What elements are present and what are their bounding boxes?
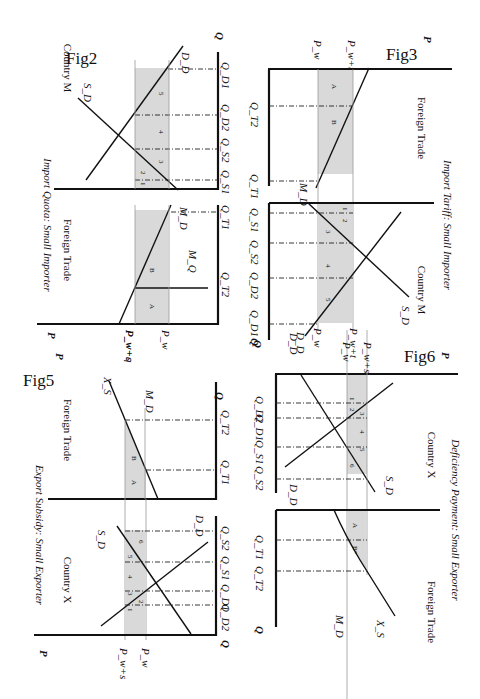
fig6-qt2-label: Q_T2 (254, 566, 266, 592)
fig5-area-5: 5 (126, 555, 134, 559)
fig3-import-tariff: Fig3 P Import Tariff: Small Importer For… (249, 36, 454, 359)
fig3-area-3: 3 (324, 230, 332, 234)
fig6-qd1-label: Q_D1 (254, 414, 266, 441)
fig3-qd2-label: Q_D2 (249, 272, 261, 299)
fig5-p-axis-label: P (38, 650, 50, 657)
fig2-import-quota: Fig2 Import Quota: Small Importer Countr… (37, 32, 232, 363)
fig5-area-2: 2 (137, 600, 145, 604)
fig2-pw-label: P_w (160, 329, 172, 350)
fig5-md-label: M_D (144, 389, 156, 413)
fig2-foreign-trade-label: Foreign Trade (62, 219, 74, 281)
fig5-label: Fig5 (23, 371, 54, 390)
fig2-area-3: 3 (157, 160, 165, 164)
fig6-foreign-trade-label: Foreign Trade (426, 581, 438, 643)
economics-diagram-page: Fig2 Import Quota: Small Importer Countr… (0, 0, 480, 699)
fig2-title: Import Quota: Small Importer (42, 157, 54, 292)
fig6-shade-trade (347, 510, 367, 571)
fig6-area-a: A (351, 523, 359, 528)
fig5-export-subsidy: Fig5 P Export Subsidy: Small Exporter Fo… (23, 329, 232, 679)
fig3-pw-label-bottom: P_w (312, 327, 324, 348)
fig5-qs2-label: Q_S2 (220, 526, 232, 551)
fig3-area-1: 1 (341, 207, 349, 211)
fig6-deficiency-payment: Fig6 P Deficiency Payment: Small Exporte… (252, 330, 462, 699)
fig2-area-1: 1 (139, 182, 147, 186)
fig2-sd-label: S_D (82, 83, 94, 102)
fig5-sd-label: S_D (96, 530, 108, 549)
fig5-xs-label: X_S (102, 376, 114, 395)
fig3-pw-label: P_w (312, 39, 324, 60)
fig2-shade-band (135, 68, 169, 188)
fig6-p-axis-label: P (440, 352, 452, 359)
fig2-area-b: B (148, 268, 156, 273)
fig3-qd1-label: Q_D1 (249, 310, 261, 337)
fig5-pw-label: P_w (140, 647, 152, 668)
fig2-qd2-label: Q_D2 (220, 104, 232, 131)
fig6-title: Deficiency Payment: Small Exporter (450, 438, 462, 601)
fig5-qt2-label: Q_T2 (220, 410, 232, 436)
fig3-sd-label: S_D (400, 306, 412, 325)
fig6-area-6: 6 (348, 464, 356, 468)
fig2-area-5: 5 (157, 92, 165, 96)
fig2-mq-label: M_Q (187, 249, 199, 273)
fig6-xs-label: X_S (375, 619, 387, 638)
fig6-area-1: 1 (348, 397, 356, 401)
fig5-foreign-trade-label: Foreign Trade (62, 399, 74, 461)
fig5-q-axis-label: Q (214, 392, 226, 400)
fig3-qt1-label: Q_T1 (249, 174, 261, 199)
fig5-dd-label: D_D (194, 514, 206, 536)
fig2-qs1-label: Q_S1 (220, 170, 232, 194)
fig2-dd-label: D_D (180, 51, 192, 73)
fig2-qs2-label: Q_S2 (220, 138, 232, 163)
fig6-area-5: 5 (358, 448, 366, 452)
fig3-country-label: Country M (416, 266, 428, 315)
fig6-sd-label: S_D (384, 476, 396, 495)
fig6-pw-label: P_w (341, 341, 353, 362)
fig2-area-a: A (148, 304, 156, 309)
fig3-area-2: 2 (341, 219, 349, 223)
fig5-qd2-label: Q_D2 (220, 604, 232, 631)
fig5-title: Export Subsidy: Small Exporter (34, 464, 46, 606)
fig6-area-b: B* (351, 546, 359, 555)
fig5-qs1-label: Q_S1 (220, 556, 232, 580)
fig6-md-label: M_D (334, 614, 346, 638)
fig6-country-label: Country X (426, 432, 438, 479)
fig5-area-1: 1 (126, 608, 134, 612)
fig5-p-axis-label-top: P (54, 353, 66, 360)
fig5-area-4: 4 (126, 575, 134, 579)
fig6-shade-country (347, 374, 367, 474)
fig5-shade-country (125, 530, 146, 635)
fig5-pws-label-top: P_w+s (124, 329, 136, 361)
fig6-q-axis-label: Q (254, 626, 266, 634)
fig3-area-b: B (330, 120, 338, 125)
fig2-country-label: Country M (62, 44, 74, 93)
fig2-area-2: 2 (139, 171, 147, 175)
fig6-label: Fig6 (404, 347, 435, 366)
fig5-pws-label: P_w+s (118, 647, 130, 679)
fig6-q-axis-label-top: Q (252, 340, 264, 348)
fig5-country-label: Country X (62, 557, 74, 604)
fig2-p-axis-label: P (46, 332, 58, 339)
fig3-title: Import Tariff: Small Importer (442, 159, 454, 291)
fig2-q-axis-label: Q (214, 32, 226, 40)
fig6-pws-label: P_w+s (362, 341, 374, 373)
fig5-qt1-label: Q_T1 (220, 460, 232, 485)
fig3-p-axis-label: P (422, 36, 434, 43)
fig6-qs1-label: Q_S1 (254, 440, 266, 464)
fig6-qs2-label: Q_S2 (254, 466, 266, 491)
fig6-dd-label-top: D_D (288, 332, 300, 354)
fig3-area-a: A (330, 84, 338, 89)
fig3-qt2-label: Q_T2 (249, 102, 261, 128)
fig3-area-4: 4 (324, 264, 332, 268)
fig2-md-label: M_D (178, 206, 190, 230)
fig2-qt1-label: Q_T1 (220, 205, 232, 230)
fig3-pwt-label: P_w+t (346, 39, 358, 71)
fig2-qd1-label: Q_D1 (220, 62, 232, 89)
fig3-label: Fig3 (386, 45, 417, 64)
fig5-area-3: 3 (126, 592, 134, 596)
fig2-area-4: 4 (157, 130, 165, 134)
fig5-demand-curve (101, 542, 208, 626)
fig3-area-5: 5 (324, 298, 332, 302)
fig3-foreign-trade-label: Foreign Trade (416, 97, 428, 159)
fig6-area-2: 2 (348, 408, 356, 412)
fig2-qt2-label: Q_T2 (220, 272, 232, 298)
